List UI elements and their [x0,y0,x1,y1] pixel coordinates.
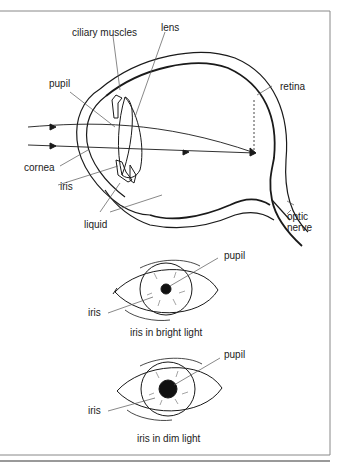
label-iris: iris [60,181,73,192]
label-cornea: cornea [24,162,55,173]
eye-bright-light [108,258,218,321]
bright-label-iris: iris [88,307,101,318]
cornea-inner [87,96,125,197]
label-ciliary-muscles: ciliary muscles [72,27,137,38]
dim-label-iris: iris [88,405,101,416]
dim-label-pupil: pupil [224,349,245,360]
bright-label-pupil: pupil [224,250,245,261]
sclera-lower-outer [150,199,270,218]
eye-dim-light [108,358,222,421]
dim-caption: iris in dim light [137,433,201,444]
label-optic-nerve-1: optic [287,211,308,222]
eye-cross-section [77,53,308,246]
label-optic-nerve-2: nerve [287,222,312,233]
label-retina: retina [280,81,305,92]
eye-diagram-figure: ciliary muscles lens pupil retina cornea… [0,0,346,468]
label-pupil: pupil [49,78,70,89]
label-lens: lens [161,22,179,33]
label-liquid: liquid [84,219,107,230]
leader-lines [58,32,294,214]
sclera-lower-inner [105,190,274,228]
lens [118,97,132,175]
pupil-dot [159,380,177,398]
arrow-icon [50,143,56,149]
pupil-dot [161,284,171,294]
bright-caption: iris in bright light [130,327,202,338]
arrow-icon [250,148,256,156]
